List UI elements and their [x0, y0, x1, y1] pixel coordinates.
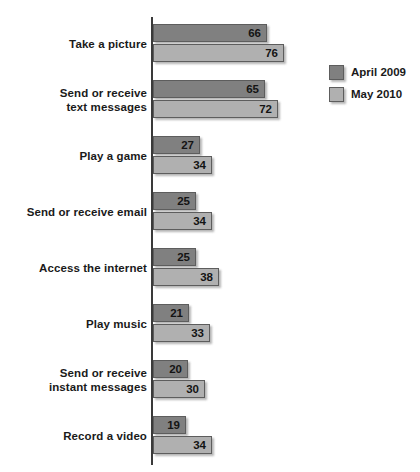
bar-april-2009: 25 [153, 192, 196, 210]
bar-may-2010: 34 [153, 156, 212, 174]
bar-group: Play music2133 [0, 296, 420, 352]
category-label-line: Take a picture [69, 37, 147, 52]
bar-value-label: 30 [186, 383, 204, 395]
category-label: Send or receive email [0, 184, 147, 240]
bar-group: Record a video1934 [0, 408, 420, 464]
category-label-line: Access the internet [39, 261, 147, 276]
bar-value-label: 65 [246, 83, 264, 95]
legend-label: May 2010 [351, 88, 402, 100]
bar-may-2010: 34 [153, 212, 212, 230]
bar-april-2009: 27 [153, 136, 200, 154]
category-label-line: Send or receive [60, 366, 147, 381]
legend-item: April 2009 [329, 62, 406, 82]
bar-group: Send or receiveinstant messages2030 [0, 352, 420, 408]
category-label: Take a picture [0, 16, 147, 72]
category-label-line: Send or receive [60, 86, 147, 101]
bar-value-label: 27 [181, 139, 199, 151]
bar-april-2009: 19 [153, 416, 186, 434]
bar-value-label: 19 [167, 419, 185, 431]
bar-may-2010: 33 [153, 324, 210, 342]
bar-group: Play a game2734 [0, 128, 420, 184]
bar-group: Send or receive email2534 [0, 184, 420, 240]
category-label-line: instant messages [49, 380, 147, 395]
legend-swatch [329, 65, 344, 80]
category-label-line: Send or receive email [27, 205, 147, 220]
bar-value-label: 72 [259, 103, 277, 115]
bar-group: Access the internet2538 [0, 240, 420, 296]
bar-value-label: 33 [191, 327, 209, 339]
chart-legend: April 2009May 2010 [329, 62, 406, 106]
legend-item: May 2010 [329, 84, 406, 104]
category-label-line: Play a game [79, 149, 147, 164]
legend-swatch [329, 87, 344, 102]
bar-value-label: 76 [265, 47, 283, 59]
bar-may-2010: 30 [153, 380, 205, 398]
bar-april-2009: 20 [153, 360, 188, 378]
bar-value-label: 66 [248, 27, 266, 39]
category-label: Record a video [0, 408, 147, 464]
bar-may-2010: 38 [153, 268, 219, 286]
category-label: Access the internet [0, 240, 147, 296]
bar-may-2010: 76 [153, 44, 284, 62]
bar-value-label: 38 [200, 271, 218, 283]
category-label-line: text messages [66, 100, 147, 115]
category-label: Play a game [0, 128, 147, 184]
bar-value-label: 34 [193, 439, 211, 451]
bar-april-2009: 25 [153, 248, 196, 266]
bar-may-2010: 72 [153, 100, 278, 118]
bar-value-label: 21 [170, 307, 188, 319]
bar-chart: Take a picture6676Send or receivetext me… [0, 0, 420, 472]
bar-value-label: 25 [177, 195, 195, 207]
bar-april-2009: 66 [153, 24, 267, 42]
bar-may-2010: 34 [153, 436, 212, 454]
bar-value-label: 34 [193, 215, 211, 227]
legend-label: April 2009 [351, 66, 406, 78]
category-label: Send or receivetext messages [0, 72, 147, 128]
category-label-line: Play music [86, 317, 147, 332]
category-label: Play music [0, 296, 147, 352]
bar-april-2009: 65 [153, 80, 265, 98]
bar-value-label: 34 [193, 159, 211, 171]
category-label-line: Record a video [63, 429, 147, 444]
bar-value-label: 20 [169, 363, 187, 375]
category-label: Send or receiveinstant messages [0, 352, 147, 408]
bar-april-2009: 21 [153, 304, 189, 322]
bar-value-label: 25 [177, 251, 195, 263]
